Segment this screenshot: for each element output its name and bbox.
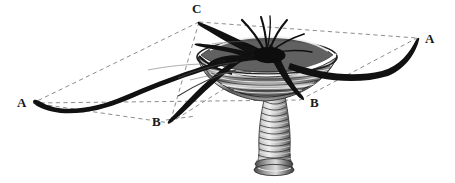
dashed-edge-c-to-a-left (33, 22, 199, 103)
dashed-edge-c-to-a-right (199, 22, 417, 38)
label-a-left: A (17, 96, 26, 109)
figure-canvas (0, 0, 455, 183)
label-a-right: A (425, 32, 434, 45)
stalk-base-ring-lower (254, 164, 294, 175)
label-c-top: C (192, 2, 201, 15)
annulated-stalk (254, 96, 294, 176)
label-b-right: B (310, 96, 319, 109)
tentacle-group (33, 16, 419, 124)
label-b-left: B (152, 115, 161, 128)
engraving-figure: A A B B C (0, 0, 455, 183)
